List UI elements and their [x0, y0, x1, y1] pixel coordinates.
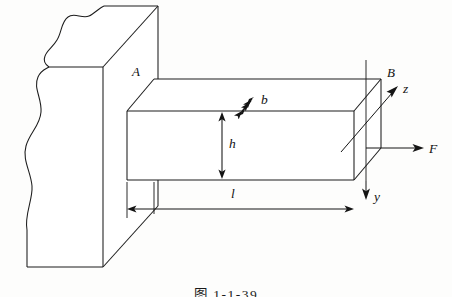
dimension-l: l	[127, 182, 354, 218]
force-f-label: F	[428, 141, 438, 156]
beam-front-face	[127, 111, 354, 180]
dim-l-label: l	[231, 186, 235, 201]
wall-front-face	[25, 67, 103, 267]
dim-b-label: b	[261, 92, 268, 107]
axis-y-label: y	[372, 189, 380, 204]
point-b-label: B	[387, 65, 395, 80]
cantilever-beam	[127, 79, 381, 180]
figure-caption-clip: 图 1-1-39	[0, 283, 452, 297]
dim-h-label: h	[229, 136, 236, 151]
cantilever-beam-diagram: b h l y z	[0, 0, 452, 297]
figure-caption: 图 1-1-39	[0, 283, 452, 297]
axis-z-arrowhead	[387, 86, 399, 97]
figure-root: b h l y z	[0, 0, 452, 297]
beam-top-face	[127, 79, 381, 111]
axis-z-label: z	[402, 81, 409, 96]
point-a-label: A	[131, 64, 140, 79]
